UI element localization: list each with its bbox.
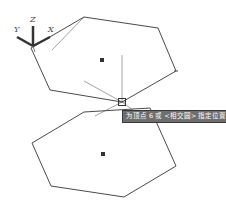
ucs-z-label: Z xyxy=(29,15,36,24)
ucs-x-label: X xyxy=(47,25,54,34)
upper-hexagon-center-marker xyxy=(100,58,104,62)
tooltip-text: 为顶点 6 或 <相交圆> 指定位置 xyxy=(126,112,226,120)
lower-hexagon-center-marker xyxy=(101,152,105,156)
ucs-y-label: Y xyxy=(14,25,20,34)
dynamic-input-tooltip: 为顶点 6 或 <相交圆> 指定位置 xyxy=(122,110,226,123)
ucs-icon: Z Y X xyxy=(14,15,54,52)
drawing-canvas[interactable]: Z Y X xyxy=(0,0,226,208)
tracking-lines xyxy=(52,17,133,116)
